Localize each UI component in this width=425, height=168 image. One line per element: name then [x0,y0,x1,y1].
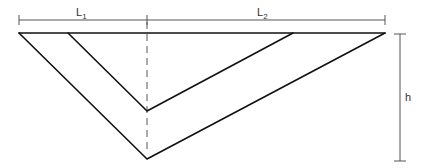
diagram-canvas: L1 L2 h [0,0,425,168]
chevron-shape [19,33,385,159]
horizontal-dimension [19,15,385,25]
label-l1: L1 [76,6,87,21]
outer-v-edge [19,33,385,159]
label-h: h [405,91,411,103]
label-l2: L2 [257,6,268,21]
